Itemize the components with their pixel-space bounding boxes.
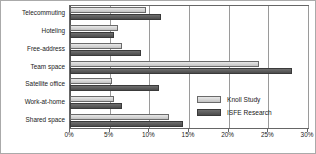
chart-legend: Knoll Study ISFE Research [197, 93, 293, 119]
bar [70, 7, 146, 13]
axis-tick-mark [188, 129, 189, 132]
bar [70, 32, 114, 38]
legend-label: ISFE Research [227, 109, 272, 116]
axis-tick-mark [228, 129, 229, 132]
category-axis: TelecommutingHotelingFree-addressTeam sp… [1, 5, 69, 129]
axis-tick-label: 15% [182, 131, 195, 138]
axis-tick-label: 20% [221, 131, 234, 138]
axis-tick-label: 25% [261, 131, 274, 138]
bar [70, 78, 112, 84]
bar [70, 85, 159, 91]
axis-tick-mark [267, 129, 268, 132]
axis-tick-label: 5% [104, 131, 113, 138]
bar-chart: TelecommutingHotelingFree-addressTeam sp… [0, 0, 316, 154]
axis-tick-label: 0% [64, 131, 73, 138]
category-label: Work-at-home [1, 98, 65, 106]
axis-tick-label: 30% [301, 131, 314, 138]
bar-group [70, 25, 308, 40]
bar [70, 14, 161, 20]
category-label: Telecommuting [1, 9, 65, 17]
bar [70, 68, 292, 74]
axis-tick-mark [307, 129, 308, 132]
bar [70, 121, 183, 127]
bar [70, 43, 122, 49]
bar [70, 103, 122, 109]
category-label: Hoteling [1, 27, 65, 35]
bar [70, 114, 169, 120]
axis-tick-mark [69, 129, 70, 132]
gridline [308, 6, 309, 128]
category-label: Free-address [1, 45, 65, 53]
legend-label: Knoll Study [227, 96, 260, 103]
bar [70, 96, 114, 102]
bar [70, 50, 141, 56]
axis-tick-label: 10% [142, 131, 155, 138]
category-label: Shared space [1, 116, 65, 124]
bar [70, 25, 118, 31]
axis-tick-mark [148, 129, 149, 132]
bar-group [70, 78, 308, 93]
bar-group [70, 7, 308, 22]
value-axis-tick-labels: 0%5%10%15%20%25%30% [69, 131, 309, 143]
bar [70, 61, 259, 67]
legend-swatch-knoll-study [197, 96, 221, 103]
legend-item: Knoll Study [197, 93, 293, 106]
bar-group [70, 43, 308, 58]
category-label: Team space [1, 63, 65, 71]
legend-swatch-isfe-research [197, 109, 221, 116]
category-label: Satellite office [1, 80, 65, 88]
axis-tick-mark [109, 129, 110, 132]
legend-item: ISFE Research [197, 106, 293, 119]
bar-group [70, 61, 308, 76]
